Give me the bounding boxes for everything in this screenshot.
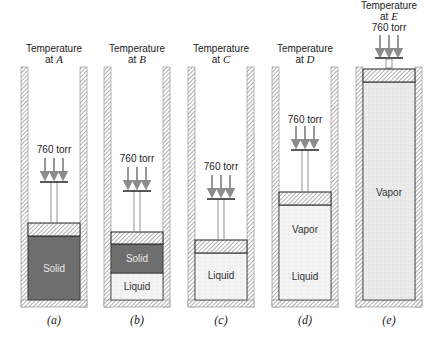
temperature-label-e: Temperature xyxy=(361,0,418,11)
cylinder-wall-left xyxy=(104,67,111,307)
temperature-at-e: at E xyxy=(380,10,398,22)
cylinder-base xyxy=(188,300,254,307)
caption-a: (a) xyxy=(47,313,61,327)
vapor-label: Vapor xyxy=(292,224,319,235)
liquid-label: Liquid xyxy=(124,281,151,292)
temperature-at-a: at A xyxy=(45,53,63,65)
piston xyxy=(111,232,163,244)
temperature-label-c: Temperature xyxy=(193,43,250,54)
cylinder-wall-left xyxy=(21,67,28,307)
piston xyxy=(195,240,247,253)
pressure-arrows-icon xyxy=(212,175,230,193)
piston xyxy=(28,223,80,236)
temperature-label-d: Temperature xyxy=(277,43,334,54)
caption-d: (d) xyxy=(298,313,312,327)
cylinder-wall-right xyxy=(80,67,87,307)
cylinder-wall-right xyxy=(415,67,422,307)
cylinder-base xyxy=(104,300,170,307)
cylinder-base xyxy=(21,300,87,307)
pressure-arrows-icon xyxy=(128,167,146,185)
pressure-label: 760 torr xyxy=(288,114,323,125)
temperature-at-b: at B xyxy=(128,53,146,65)
cylinder-wall-right xyxy=(331,67,338,307)
pressure-arrows-icon xyxy=(45,158,63,176)
pressure-label: 760 torr xyxy=(37,144,72,155)
cylinder-base xyxy=(272,300,338,307)
cylinder-base xyxy=(356,300,422,307)
vapor-label: Vapor xyxy=(376,187,403,198)
pressure-label: 760 torr xyxy=(204,161,239,172)
pressure-arrows-icon xyxy=(296,126,314,144)
caption-e: (e) xyxy=(382,313,395,327)
cylinder-wall-right xyxy=(247,67,254,307)
cylinder-wall-left xyxy=(356,67,363,307)
piston xyxy=(363,69,415,82)
piston-rod xyxy=(386,59,392,68)
temperature-label-b: Temperature xyxy=(109,43,166,54)
vapor-liquid-region xyxy=(279,205,331,300)
solid-label: Solid xyxy=(126,253,148,264)
cylinder-wall-left xyxy=(272,67,279,307)
cylinder-wall-right xyxy=(163,67,170,307)
panel-c: Temperature at C Liquid 760 torr (c) xyxy=(188,43,254,327)
pressure-arrows-icon xyxy=(380,35,398,53)
liquid-label: Liquid xyxy=(208,270,235,281)
liquid-label: Liquid xyxy=(292,271,319,282)
panel-a: Temperature at A Solid 760 torr (a) xyxy=(21,43,87,327)
phase-change-diagram: Temperature at A Solid 760 torr (a) Temp… xyxy=(0,0,436,346)
solid-label: Solid xyxy=(43,263,65,274)
panel-e: Temperature at E 760 torr Vapor (e) xyxy=(356,0,422,327)
caption-b: (b) xyxy=(130,313,144,327)
panel-b: Temperature at B Liquid Solid 760 torr (… xyxy=(104,43,170,327)
caption-c: (c) xyxy=(214,313,227,327)
temperature-at-c: at C xyxy=(212,53,231,65)
pressure-label: 760 torr xyxy=(120,153,155,164)
panel-d: Temperature at D Vapor Liquid 760 torr (… xyxy=(272,43,338,327)
temperature-at-d: at D xyxy=(295,53,314,65)
piston xyxy=(279,192,331,205)
temperature-label-a: Temperature xyxy=(26,43,83,54)
cylinder-wall-left xyxy=(188,67,195,307)
pressure-label: 760 torr xyxy=(372,22,407,33)
